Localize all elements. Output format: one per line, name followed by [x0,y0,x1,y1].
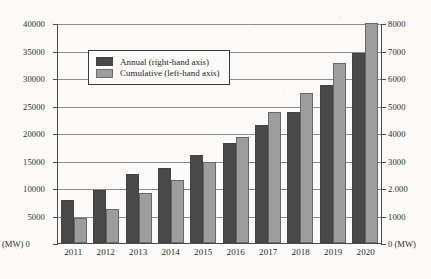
left-axis-tick-label: 20000 [23,129,45,139]
right-axis-tick [381,244,386,245]
bar-group [284,24,316,243]
right-axis-tick [381,79,386,80]
x-axis-tick-label: 2018 [285,247,318,257]
x-axis-tick-label: 2011 [57,247,90,257]
bar-cumulative [236,137,249,243]
right-axis-unit-label: 0 (MW) [388,239,416,249]
bar-cumulative [333,63,346,243]
bar-annual [61,200,74,243]
bar-cumulative [203,162,216,243]
bar-cumulative [171,180,184,243]
right-axis-tick-label: 6000 [388,74,406,84]
left-axis-tick-label: 40000 [23,19,45,29]
x-axis-tick-label: 2012 [90,247,123,257]
x-axis-tick-label: 2015 [187,247,220,257]
left-axis-tick-label: 30000 [23,74,45,84]
bar-annual [190,155,203,243]
legend-item-label: Cumulative (left-hand axis) [120,68,219,78]
bar-group [349,24,381,243]
x-axis-tick-label: 2013 [122,247,155,257]
right-axis-tick [381,162,386,163]
right-axis-tick-label: 4000 [388,129,406,139]
bar-cumulative [300,93,313,243]
bar-annual [126,174,139,243]
right-axis-tick [381,189,386,190]
right-axis-tick-label: 8000 [388,19,406,29]
left-axis-tick-label: 15000 [23,157,45,167]
bar-group [316,24,348,243]
bar-cumulative [365,23,378,243]
right-axis-tick-label: 5000 [388,102,406,112]
bar-annual [255,125,268,243]
bar-group [58,24,90,243]
legend-color-swatch [96,57,113,66]
legend-color-swatch [96,69,113,78]
bar-chart-figure: (MW) 0 0 (MW) 20112012201320142015201620… [0,0,431,279]
x-axis-tick-label: 2014 [155,247,188,257]
bar-annual [223,143,236,243]
bar-annual [352,53,365,243]
left-axis-tick-label: 25000 [23,102,45,112]
left-axis-tick [53,244,58,245]
right-axis-tick-label: 3000 [388,157,406,167]
right-axis-tick-label: 7000 [388,47,406,57]
legend-item-label: Annual (right-hand axis) [120,57,209,67]
x-axis-tick-label: 2020 [350,247,383,257]
left-axis-unit-label: (MW) 0 [2,239,30,249]
x-axis-tick-label: 2019 [317,247,350,257]
x-axis-tick-label: 2016 [220,247,253,257]
bar-group [252,24,284,243]
left-axis-tick-label: 10000 [23,184,45,194]
right-axis-tick [381,24,386,25]
left-axis-tick-label: 5000 [27,212,45,222]
legend-item: Cumulative (left-hand axis) [96,68,219,78]
x-axis-tick-label: 2017 [252,247,285,257]
right-axis-tick-label: 1000 [388,212,406,222]
left-axis-tick-label: 35000 [23,47,45,57]
right-axis-tick [381,107,386,108]
right-axis-tick-label: 2.000 [388,184,408,194]
bar-annual [320,85,333,243]
legend-item: Annual (right-hand axis) [96,57,219,67]
right-axis-tick [381,217,386,218]
bar-cumulative [139,193,152,243]
bar-cumulative [106,209,119,243]
bar-annual [158,168,171,243]
x-axis-category-labels: 2011201220132014201520162017201820192020 [57,247,382,257]
bar-cumulative [268,112,281,243]
bar-cumulative [74,218,87,243]
right-axis-tick [381,52,386,53]
chart-legend: Annual (right-hand axis)Cumulative (left… [88,50,230,85]
bar-annual [93,190,106,243]
bar-annual [287,112,300,243]
right-axis-tick [381,134,386,135]
